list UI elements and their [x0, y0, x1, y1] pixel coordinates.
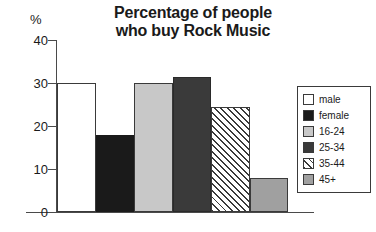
y-axis-tick-mark — [48, 169, 56, 170]
y-axis-tick-mark — [48, 212, 56, 213]
y-axis-tick-label: 10 — [6, 162, 48, 177]
bar-series — [57, 40, 288, 212]
legend-swatch-icon — [303, 158, 314, 169]
legend-swatch-icon — [303, 94, 314, 105]
y-axis-tick-mark — [48, 83, 56, 84]
legend-item-35-44[interactable]: 35-44 — [303, 156, 366, 171]
chart-title: Percentage of people who buy Rock Music — [78, 4, 308, 40]
x-axis-line — [26, 212, 314, 213]
bar-45+ — [250, 178, 289, 212]
legend-item-label: female — [319, 111, 349, 121]
legend-swatch-icon — [303, 126, 314, 137]
legend-swatch-icon — [303, 142, 314, 153]
bar-35-44 — [211, 107, 250, 212]
y-axis-tick-label: 20 — [6, 119, 48, 134]
legend-item-label: 35-44 — [319, 159, 345, 169]
chart-legend: malefemale16-2425-3435-4445+ — [297, 86, 371, 193]
bar-female — [96, 135, 135, 212]
legend-item-label: male — [319, 95, 341, 105]
y-axis-tick-label: 0 — [6, 205, 48, 220]
bar-16-24 — [134, 83, 173, 212]
chart-title-line-1: Percentage of people — [78, 4, 308, 22]
legend-item-label: 25-34 — [319, 143, 345, 153]
bar-chart: Percentage of people who buy Rock Music … — [0, 0, 376, 232]
legend-item-label: 45+ — [319, 175, 336, 185]
y-axis-unit-label: % — [30, 12, 42, 27]
y-axis-tick-label: 30 — [6, 76, 48, 91]
y-axis-tick-mark — [48, 40, 56, 41]
bar-male — [57, 83, 96, 212]
legend-swatch-icon — [303, 174, 314, 185]
y-axis-tick-label: 40 — [6, 33, 48, 48]
legend-item-45+[interactable]: 45+ — [303, 172, 366, 187]
bar-25-34 — [173, 77, 212, 212]
legend-item-25-34[interactable]: 25-34 — [303, 140, 366, 155]
legend-item-label: 16-24 — [319, 127, 345, 137]
legend-item-16-24[interactable]: 16-24 — [303, 124, 366, 139]
legend-swatch-icon — [303, 110, 314, 121]
legend-item-female[interactable]: female — [303, 108, 366, 123]
chart-title-line-2: who buy Rock Music — [78, 22, 308, 40]
legend-item-male[interactable]: male — [303, 92, 366, 107]
y-axis-tick-mark — [48, 126, 56, 127]
